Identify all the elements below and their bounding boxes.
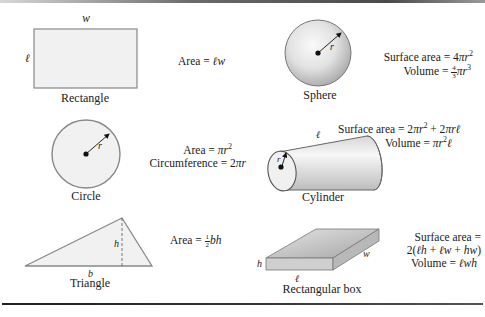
- triangle-area-formula: Area = 12bh: [170, 234, 222, 249]
- triangle-height-label: h: [114, 237, 119, 250]
- sphere-surface-area-formula: Surface area = 4πr2: [350, 51, 473, 64]
- triangle-label: Triangle: [58, 277, 122, 290]
- box-volume-formula: Volume = ℓwh: [380, 257, 477, 270]
- box-surface-area-formula-line1: Surface area =: [380, 231, 481, 244]
- cylinder-radius-label: r: [277, 153, 281, 166]
- circle-radius-label: r: [98, 139, 102, 152]
- cylinder-label: Cylinder: [288, 191, 358, 204]
- triangle-figure: [25, 218, 152, 266]
- rectangle-width-label: w: [76, 12, 96, 25]
- rectangle-label: Rectangle: [35, 92, 135, 105]
- circle-area-formula: Area = πr2: [140, 144, 232, 157]
- rectangular-box-label: Rectangular box: [272, 283, 372, 296]
- cylinder-figure: [265, 136, 382, 193]
- box-width-label: w: [363, 247, 370, 260]
- sphere-volume-formula: Volume = 43πr3: [350, 65, 471, 80]
- rectangle-length-label: ℓ: [25, 52, 30, 65]
- circle-circumference-formula: Circumference = 2πr: [130, 157, 246, 170]
- circle-figure: [52, 120, 120, 188]
- sphere-figure: [285, 20, 351, 86]
- cylinder-volume-formula: Volume = πr2ℓ: [385, 137, 452, 150]
- sphere-label: Sphere: [290, 89, 350, 102]
- sphere-radius-label: r: [330, 40, 334, 53]
- box-height-label: h: [257, 257, 262, 270]
- cylinder-length-label: ℓ: [316, 128, 320, 141]
- rectangle-area-formula: Area = ℓw: [178, 55, 225, 68]
- box-surface-area-formula-line2: 2(ℓh + ℓw + hw): [380, 244, 481, 257]
- circle-label: Circle: [56, 190, 116, 203]
- rectangle-figure: [34, 29, 137, 88]
- bottom-rule: [2, 303, 483, 305]
